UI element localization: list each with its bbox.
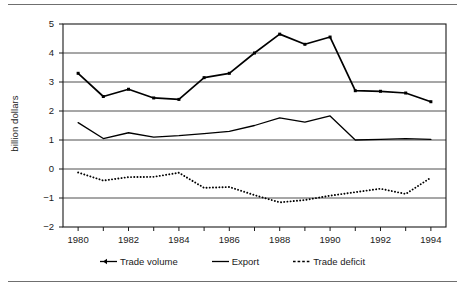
series-marker: [127, 88, 130, 91]
legend-label-trade-deficit: Trade deficit: [313, 257, 365, 267]
x-tick-label: 1982: [109, 234, 149, 245]
x-tick-label: 1980: [58, 234, 98, 245]
legend-label-trade-volume: Trade volume: [120, 257, 178, 267]
series-marker: [379, 90, 382, 93]
series-marker: [354, 89, 357, 92]
series-marker: [329, 36, 332, 39]
series-marker: [228, 72, 231, 75]
y-tick-label: 2: [32, 105, 54, 116]
x-tick-label: 1990: [310, 234, 350, 245]
chart-legend: Trade volume Export Trade deficit: [0, 257, 465, 267]
legend-item-trade-volume: Trade volume: [100, 257, 178, 267]
y-tick-label: −1: [32, 192, 54, 203]
series-marker: [429, 100, 432, 103]
series-marker: [77, 72, 80, 75]
series-marker: [253, 52, 256, 55]
legend-label-export: Export: [232, 257, 259, 267]
x-tick-label: 1988: [260, 234, 300, 245]
legend-item-export: Export: [212, 257, 259, 267]
y-tick-label: 1: [32, 134, 54, 145]
y-tick-label: 3: [32, 76, 54, 87]
series-marker: [278, 33, 281, 36]
series-marker: [203, 76, 206, 79]
x-tick-label: 1984: [159, 234, 199, 245]
series-line-0: [78, 34, 431, 102]
line-chart: billion dollars 543210−1−2 1980198219841…: [0, 0, 465, 292]
y-tick-label: 0: [32, 163, 54, 174]
x-tick-label: 1986: [209, 234, 249, 245]
y-tick-label: −2: [32, 221, 54, 232]
x-tick-label: 1992: [360, 234, 400, 245]
series-marker: [303, 43, 306, 46]
x-tick-label: 1994: [411, 234, 451, 245]
series-marker: [152, 96, 155, 99]
series-line-1: [78, 116, 431, 140]
line-solid-icon: [212, 257, 229, 266]
line-marker-icon: [100, 257, 117, 266]
y-tick-label: 4: [32, 47, 54, 58]
legend-item-trade-deficit: Trade deficit: [293, 257, 365, 267]
figure-container: billion dollars 543210−1−2 1980198219841…: [0, 0, 465, 292]
plot-svg: [0, 0, 465, 292]
y-tick-label: 5: [32, 18, 54, 29]
series-marker: [177, 98, 180, 101]
line-dotted-icon: [293, 257, 310, 266]
series-marker: [404, 92, 407, 95]
series-marker: [102, 95, 105, 98]
